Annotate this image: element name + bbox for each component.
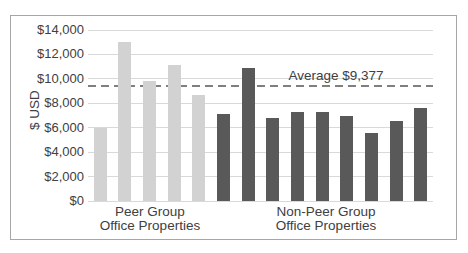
gridline-0 (88, 201, 433, 202)
gridline-14000 (88, 30, 433, 31)
average-line (88, 85, 433, 87)
x-group-label-nonpeer-line2: Office Properties (241, 219, 411, 233)
bar-peer-5 (192, 95, 205, 201)
gridline-2000 (88, 176, 433, 177)
bar-nonpeer-9 (414, 108, 427, 201)
y-tick-label-2000: $2,000 (18, 170, 84, 184)
bar-nonpeer-6 (340, 116, 353, 202)
x-group-label-peer-line1: Peer Group (65, 205, 235, 219)
gridline-8000 (88, 103, 433, 104)
bar-nonpeer-4 (291, 112, 304, 201)
gridline-4000 (88, 152, 433, 153)
x-group-label-nonpeer-line1: Non-Peer Group (241, 205, 411, 219)
y-tick-label-14000: $14,000 (18, 23, 84, 37)
bar-peer-1 (94, 128, 107, 201)
bar-peer-2 (118, 42, 131, 201)
gridline-12000 (88, 54, 433, 55)
x-group-label-peer: Peer Group Office Properties (65, 205, 235, 233)
bar-peer-3 (143, 81, 156, 201)
average-line-label: Average $9,377 (246, 68, 426, 83)
y-tick-label-12000: $12,000 (18, 47, 84, 61)
x-group-label-peer-line2: Office Properties (65, 219, 235, 233)
gridline-6000 (88, 127, 433, 128)
bar-chart-canvas: $0$2,000$4,000$6,000$8,000$10,000$12,000… (0, 0, 468, 253)
bar-nonpeer-5 (316, 112, 329, 201)
bar-nonpeer-2 (242, 68, 255, 201)
x-group-label-nonpeer: Non-Peer Group Office Properties (241, 205, 411, 233)
bar-nonpeer-7 (365, 133, 378, 201)
bar-nonpeer-3 (266, 118, 279, 201)
y-tick-label-4000: $4,000 (18, 145, 84, 159)
bar-peer-4 (168, 65, 181, 201)
bar-nonpeer-8 (390, 121, 403, 201)
y-axis-title: $ USD (27, 80, 43, 140)
bar-nonpeer-1 (217, 114, 230, 201)
